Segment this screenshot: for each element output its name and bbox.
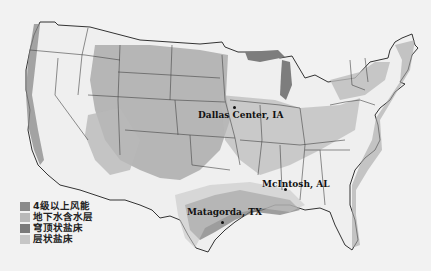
city-label-mcintosh: McIntosh, AL: [262, 179, 330, 189]
wind-swatch: [20, 202, 30, 211]
legend-label: 穹顶状盐床: [33, 223, 83, 233]
aquifer-swatch: [20, 213, 30, 222]
legend-item-bedded-salt: 层状盐床: [20, 234, 93, 244]
legend-item-aquifer: 地下水含水层: [20, 212, 93, 222]
bedded-salt-swatch: [20, 235, 30, 244]
legend-item-salt-dome: 穹顶状盐床: [20, 223, 93, 233]
dallas-center-marker: [233, 106, 236, 109]
legend-label: 层状盐床: [33, 234, 73, 244]
legend-label: 4级以上风能: [33, 201, 90, 211]
city-label-dallas-center: Dallas Center, IA: [198, 110, 283, 120]
city-label-matagorda: Matagorda, TX: [187, 207, 262, 217]
legend-item-wind: 4级以上风能: [20, 201, 93, 211]
matagorda-marker: [221, 221, 224, 224]
salt-dome-swatch: [20, 224, 30, 233]
legend-label: 地下水含水层: [33, 212, 93, 222]
map-legend: 4级以上风能 地下水含水层 穹顶状盐床 层状盐床: [20, 201, 93, 245]
